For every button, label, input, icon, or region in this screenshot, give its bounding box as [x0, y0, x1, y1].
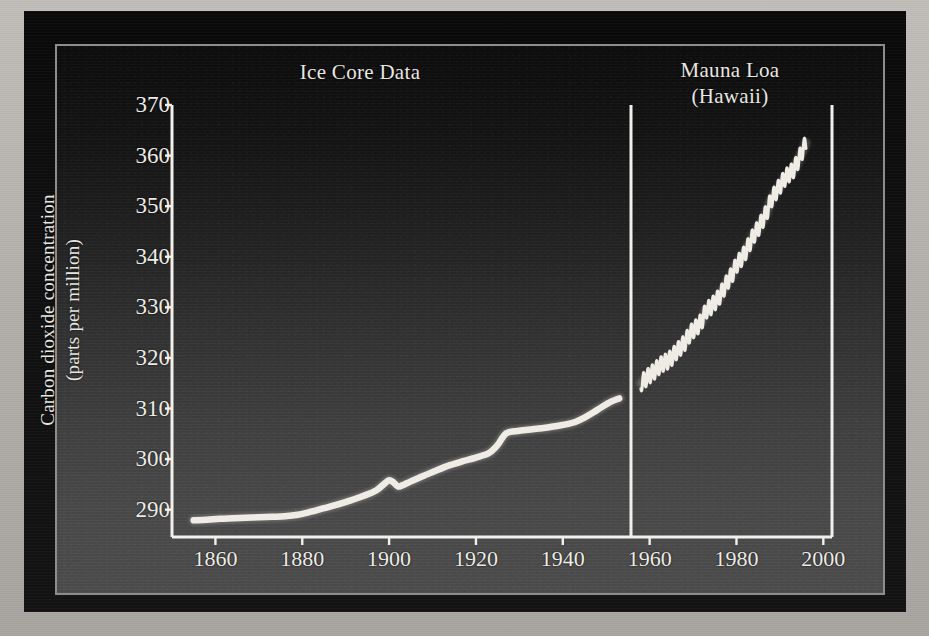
chart-svg [0, 0, 929, 636]
mauna-loa-curve [641, 138, 806, 391]
ice-core-curve [194, 398, 620, 520]
figure-page: Ice Core Data Mauna Loa (Hawaii) Carbon … [0, 0, 929, 636]
ice-core-curve-glow [194, 398, 620, 520]
chart-canvas [0, 0, 929, 636]
